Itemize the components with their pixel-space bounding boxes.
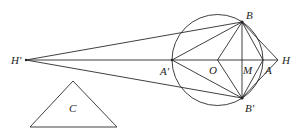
geometry-diagram: H' A' O M A H B B' C xyxy=(0,0,300,135)
line-hprime-b xyxy=(26,22,242,60)
point-aprime xyxy=(171,59,173,61)
label-c: C xyxy=(69,102,77,114)
label-bprime: B' xyxy=(245,102,255,114)
label-h: H xyxy=(281,54,291,66)
point-hprime xyxy=(25,59,27,61)
label-b: B xyxy=(246,9,253,21)
label-m: M xyxy=(242,64,253,76)
label-aprime: A' xyxy=(159,65,170,77)
label-a: A xyxy=(264,64,272,76)
point-bprime xyxy=(240,96,243,99)
label-o: O xyxy=(209,64,217,76)
point-b xyxy=(240,20,243,23)
line-aprime-b xyxy=(172,22,242,60)
line-aprime-bprime xyxy=(172,60,242,98)
radius-obprime xyxy=(218,60,243,98)
radius-ob xyxy=(218,22,243,60)
label-hprime: H' xyxy=(10,54,22,66)
